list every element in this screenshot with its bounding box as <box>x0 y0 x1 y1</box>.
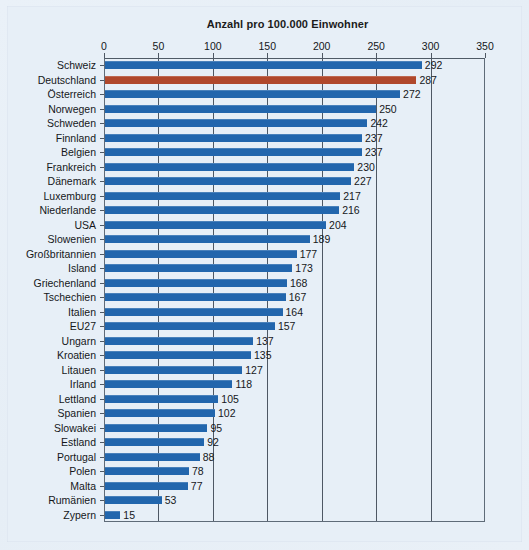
category-label: Deutschland <box>0 73 96 88</box>
category-label: Rumänien <box>0 493 96 508</box>
category-label: Schweden <box>0 116 96 131</box>
category-label: Niederlande <box>0 203 96 218</box>
category-label: Italien <box>0 305 96 320</box>
category-label: Schweiz <box>0 58 96 73</box>
category-label: Großbritannien <box>0 247 96 262</box>
chart-title: Anzahl pro 100.000 Einwohner <box>0 18 529 30</box>
x-tick-label: 50 <box>153 40 165 52</box>
x-tick-label: 100 <box>204 40 222 52</box>
category-label: Zypern <box>0 508 96 523</box>
category-label: Spanien <box>0 406 96 421</box>
x-tick-label: 150 <box>259 40 277 52</box>
plot-area: Schweiz292Deutschland287Österreich272Nor… <box>104 58 485 522</box>
category-label: Dänemark <box>0 174 96 189</box>
x-tick-label: 0 <box>101 40 107 52</box>
category-label: Slowakei <box>0 421 96 436</box>
x-tick-label: 350 <box>476 40 494 52</box>
plot-frame <box>104 58 485 522</box>
category-label: Malta <box>0 479 96 494</box>
category-label: Österreich <box>0 87 96 102</box>
category-label: Island <box>0 261 96 276</box>
category-label: Frankreich <box>0 160 96 175</box>
category-label: Litauen <box>0 363 96 378</box>
x-tick-label: 300 <box>422 40 440 52</box>
category-label: Ungarn <box>0 334 96 349</box>
x-tick-label: 200 <box>313 40 331 52</box>
category-label: Slowenien <box>0 232 96 247</box>
category-label: Portugal <box>0 450 96 465</box>
category-label: EU27 <box>0 319 96 334</box>
category-label: Irland <box>0 377 96 392</box>
category-label: Griechenland <box>0 276 96 291</box>
x-axis: 050100150200250300350 <box>104 40 485 58</box>
x-tick-mark <box>485 53 486 58</box>
chart-page: Anzahl pro 100.000 Einwohner 05010015020… <box>0 0 529 550</box>
category-label: Lettland <box>0 392 96 407</box>
category-label: Norwegen <box>0 102 96 117</box>
category-label: Kroatien <box>0 348 96 363</box>
category-label: Polen <box>0 464 96 479</box>
category-label: Belgien <box>0 145 96 160</box>
category-label: Luxemburg <box>0 189 96 204</box>
category-label: Tschechien <box>0 290 96 305</box>
category-label: Estland <box>0 435 96 450</box>
x-tick-label: 250 <box>367 40 385 52</box>
category-label: Finnland <box>0 131 96 146</box>
category-label: USA <box>0 218 96 233</box>
